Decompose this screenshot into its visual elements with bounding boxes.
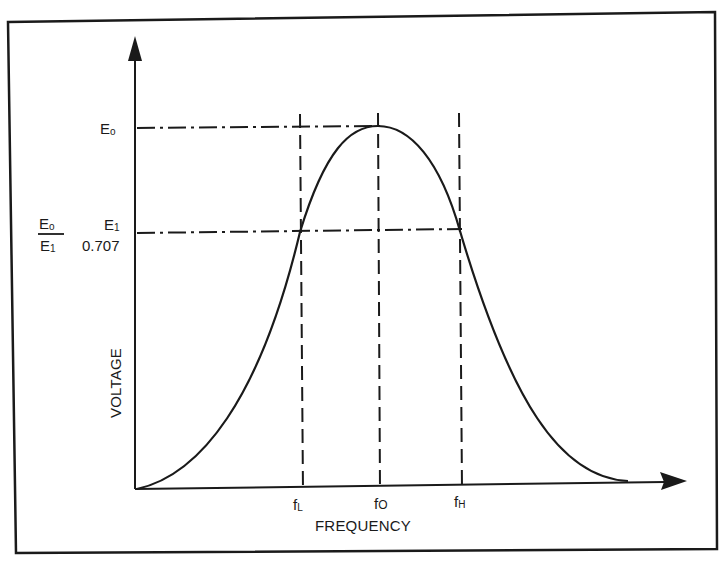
x-axis-arrow-icon xyxy=(660,472,687,490)
y-axis xyxy=(128,36,142,489)
svg-text:Eo: Eo xyxy=(39,215,55,232)
e0-guide-line xyxy=(137,126,380,128)
fl-guide-line xyxy=(300,114,303,492)
svg-text:E1: E1 xyxy=(40,237,56,254)
e1-label: E1 xyxy=(104,216,120,233)
y-axis-title: VOLTAGE xyxy=(107,348,124,418)
ratio-label: Eo E1 xyxy=(38,215,64,254)
frequency-response-diagram: Eo E1 0.707 Eo E1 VOLTAGE fL fO fH FREQU… xyxy=(0,0,725,561)
f0-guide-line xyxy=(378,113,380,490)
outer-frame xyxy=(8,12,717,553)
fl-label: fL xyxy=(293,496,303,513)
fh-label: fH xyxy=(454,493,465,510)
x-axis-title: FREQUENCY xyxy=(315,517,411,534)
fh-guide-line xyxy=(459,113,462,489)
x-axis xyxy=(135,472,687,490)
e0-label: Eo xyxy=(100,120,116,137)
e1-value-label: 0.707 xyxy=(82,237,120,254)
response-curve xyxy=(137,126,628,489)
f0-label: fO xyxy=(374,495,388,512)
y-axis-arrow-icon xyxy=(128,36,142,61)
